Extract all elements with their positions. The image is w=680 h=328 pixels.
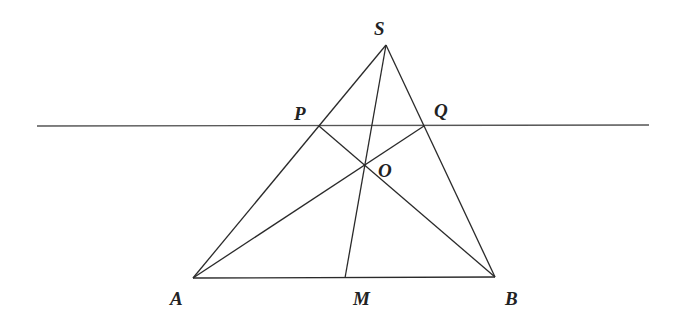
- label-o: O: [378, 161, 392, 180]
- label-m: M: [353, 289, 370, 308]
- segment-sa: [193, 45, 386, 278]
- segment-aq: [193, 126, 424, 278]
- geometry-diagram: S P Q O A M B: [0, 0, 680, 328]
- label-q: Q: [434, 101, 448, 120]
- line-through-pq: [37, 125, 649, 126]
- segment-sb: [386, 45, 495, 277]
- label-a: A: [170, 289, 183, 308]
- segment-bp: [319, 126, 495, 277]
- label-p: P: [294, 104, 306, 123]
- label-b: B: [505, 289, 518, 308]
- label-s: S: [374, 19, 385, 38]
- diagram-lines: [0, 0, 680, 328]
- segment-ab: [193, 277, 495, 278]
